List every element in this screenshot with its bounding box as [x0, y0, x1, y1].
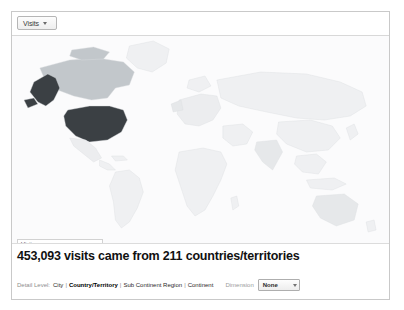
detail-level-city[interactable]: City — [53, 282, 63, 289]
metric-selector-bar: Visits — [12, 12, 389, 36]
chevron-down-icon — [293, 284, 297, 287]
detail-level-continent[interactable]: Continent — [188, 282, 214, 289]
world-map-container[interactable]: Visits 1 152,887 — [12, 36, 389, 243]
screenshot-root: Visits — [0, 0, 404, 310]
world-map-svg[interactable] — [12, 36, 389, 243]
chevron-down-icon — [43, 22, 47, 25]
summary-headline: 453,093 visits came from 211 countries/t… — [17, 249, 300, 264]
metric-selector-visits[interactable]: Visits — [17, 16, 57, 30]
detail-level-sub-continent-region[interactable]: Sub Continent Region — [123, 282, 182, 289]
dimension-select-value: None — [263, 282, 278, 289]
metric-selector-label: Visits — [23, 20, 39, 27]
map-overlay-panel: Visits — [11, 11, 390, 300]
detail-level-links: City | Country/Territory | Sub Continent… — [53, 282, 213, 289]
country-new-zealand — [366, 220, 376, 232]
footer-controls: Detail Level: City | Country/Territory |… — [12, 271, 389, 299]
detail-level-country-territory[interactable]: Country/Territory — [69, 282, 118, 289]
detail-level-label: Detail Level: — [17, 282, 50, 289]
summary-section: 453,093 visits came from 211 countries/t… — [12, 243, 389, 269]
dimension-label: Dimension — [225, 282, 253, 289]
dimension-select[interactable]: None — [258, 279, 300, 291]
